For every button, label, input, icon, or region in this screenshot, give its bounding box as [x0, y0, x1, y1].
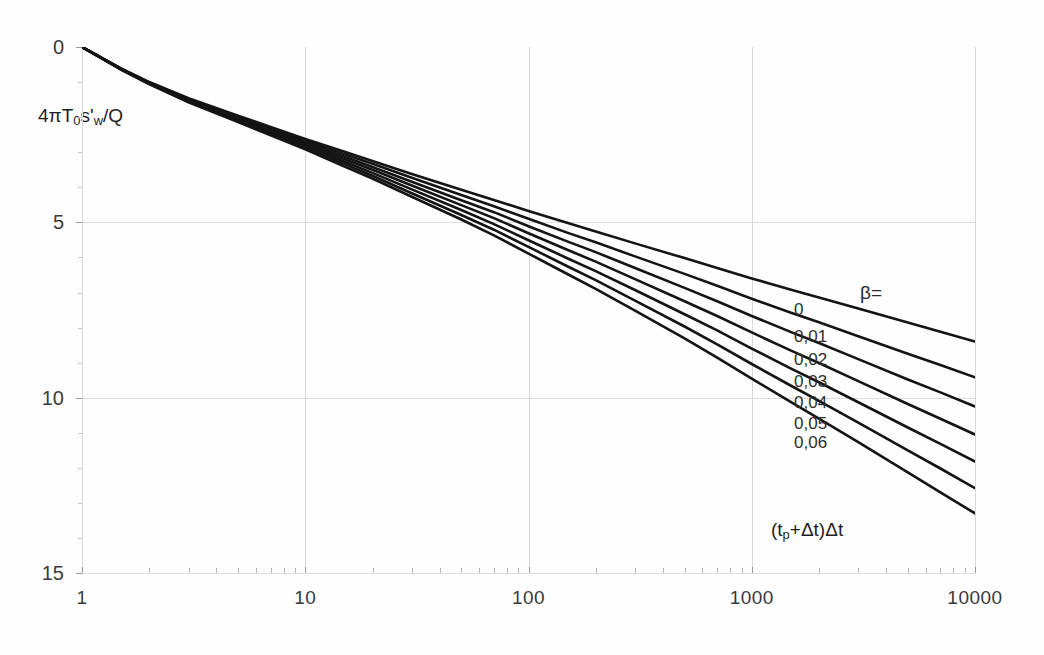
- x-tick-label: 10000: [947, 587, 1002, 609]
- x-tick-major: [975, 567, 976, 573]
- curve-end-label: 0,03: [794, 372, 827, 392]
- data-curve: [82, 47, 975, 406]
- plot-area: 110100100010000 051015 00,010,020,030,04…: [82, 47, 975, 573]
- curve-end-label: 0,02: [794, 350, 827, 370]
- y-tick-label: 5: [53, 211, 64, 234]
- x-tick-label: 1: [76, 587, 87, 609]
- grid-line-vertical: [975, 47, 976, 573]
- x-axis-title: (tp+Δt)Δt: [771, 519, 843, 542]
- curve-end-label: 0,06: [794, 433, 827, 453]
- curve-end-label: 0,01: [794, 327, 827, 347]
- y-tick-major: [76, 573, 82, 574]
- y-tick-label: 10: [42, 386, 64, 409]
- curve-group: [82, 47, 975, 573]
- x-tick-label: 10: [294, 587, 316, 609]
- legend-title: β=: [860, 282, 882, 304]
- grid-line-horizontal: [82, 573, 975, 574]
- curve-end-label: 0: [794, 300, 803, 320]
- data-curve: [82, 47, 975, 513]
- data-curve: [82, 47, 975, 342]
- y-tick-label: 0: [53, 36, 64, 59]
- y-tick-label: 15: [42, 562, 64, 585]
- x-tick-label: 1000: [730, 587, 774, 609]
- curve-end-label: 0,05: [794, 414, 827, 434]
- curve-end-label: 0,04: [794, 393, 827, 413]
- figure-canvas: 4πT0s'w/Q 110100100010000 051015 00,010,…: [0, 0, 1044, 655]
- x-tick-label: 100: [512, 587, 545, 609]
